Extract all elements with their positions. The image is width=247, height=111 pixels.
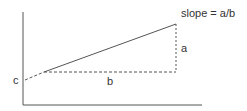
slope-line [44, 24, 176, 72]
slope-formula-label: slope = a/b [181, 7, 235, 19]
intercept-label: c [13, 74, 19, 86]
intercept-extension-dashed [25, 72, 44, 80]
slope-diagram: c a b slope = a/b [0, 0, 247, 111]
run-label: b [107, 75, 113, 87]
rise-label: a [181, 42, 188, 54]
